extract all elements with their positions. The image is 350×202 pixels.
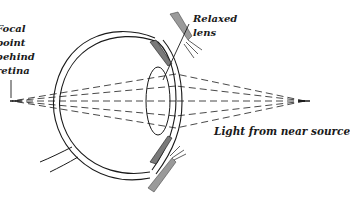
optic-nerve <box>40 147 78 172</box>
focal-point-label-line-3: behind <box>0 50 35 64</box>
focal-point-label-line-1: Focal <box>0 22 35 36</box>
lens-leader-line <box>163 24 189 80</box>
focal-point-label-line-2: point <box>0 36 35 50</box>
relaxed-lens-label-line-2: lens <box>193 26 237 40</box>
ciliary-muscle-bottom <box>148 136 186 192</box>
light-rays <box>12 74 305 128</box>
relaxed-lens-label-line-1: Relaxed <box>193 12 237 26</box>
focal-point-label: Focal point behind retina <box>0 22 35 78</box>
focal-point-label-line-4: retina <box>0 64 35 78</box>
relaxed-lens-label: Relaxed lens <box>193 12 237 40</box>
light-source-label: Light from near source <box>214 124 350 138</box>
